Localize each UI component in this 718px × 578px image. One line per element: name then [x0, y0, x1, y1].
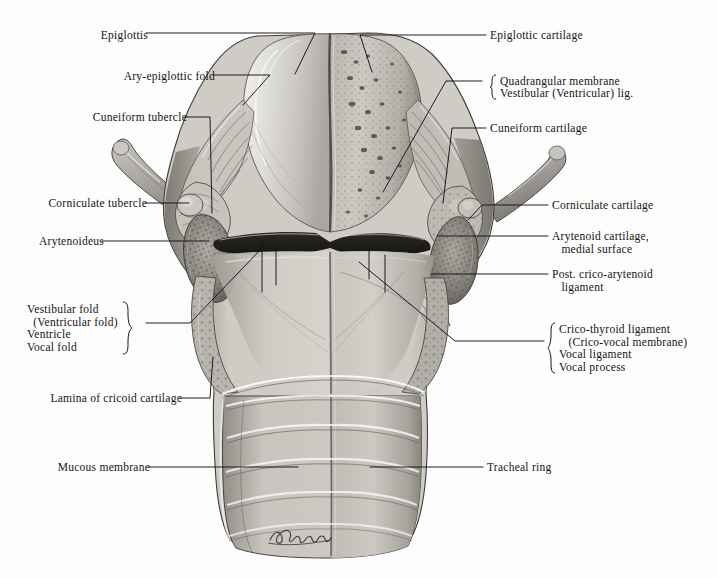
label-cuneiform-tubercle: Cuneiform tubercle [0, 111, 187, 124]
label-group-quadrangular-membrane-lines: Quadrangular membraneVestibular (Ventric… [500, 75, 633, 100]
label-arytenoideus: Arytenoideus [0, 235, 104, 248]
label-post-crico-arytenoid-ligament: Post. crico-arytenoid ligament [552, 268, 653, 293]
label-ary-epiglottic-fold: Ary-epiglottic fold [0, 70, 215, 83]
label-mucous-membrane: Mucous membrane [0, 461, 150, 474]
label-cuneiform-cartilage: Cuneiform cartilage [490, 122, 587, 135]
label-group-crico-thyroid: Crico-thyroid ligament (Crico-vocal memb… [547, 322, 687, 374]
corniculate-cartilage-right [458, 198, 482, 218]
trachea [221, 396, 422, 558]
label-corniculate-cartilage: Corniculate cartilage [552, 199, 653, 212]
brace-right-facing [121, 301, 133, 355]
label-lamina-of-cricoid-cartilage: Lamina of cricoid cartilage [0, 392, 182, 405]
label-arytenoid-cartilage-medial-surface: Arytenoid cartilage, medial surface [552, 230, 649, 255]
label-tracheal-ring: Tracheal ring [487, 461, 551, 474]
label-group-vestibular-fold-lines: Vestibular fold (Ventricular fold)Ventri… [27, 303, 118, 353]
brace-left-facing [489, 74, 498, 100]
label-epiglottis: Epiglottis [0, 29, 148, 42]
label-group-quadrangular-membrane: Quadrangular membraneVestibular (Ventric… [489, 74, 633, 100]
label-epiglottic-cartilage: Epiglottic cartilage [490, 29, 583, 42]
brace-left-facing-large [547, 322, 557, 374]
label-group-crico-thyroid-lines: Crico-thyroid ligament (Crico-vocal memb… [559, 323, 687, 373]
label-group-vestibular-fold: Vestibular fold (Ventricular fold)Ventri… [27, 301, 133, 355]
label-corniculate-tubercle: Corniculate tubercle [0, 197, 147, 210]
